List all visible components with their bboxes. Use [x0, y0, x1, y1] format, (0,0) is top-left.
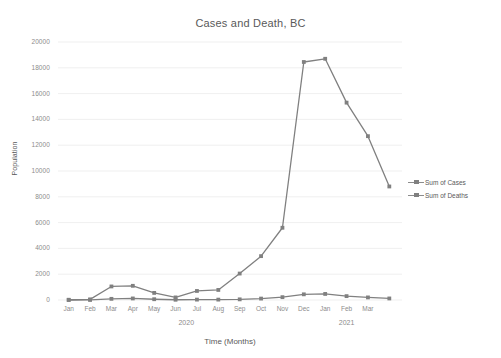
data-point-marker: [387, 297, 391, 301]
data-point-marker: [302, 292, 306, 296]
data-point-marker: [174, 298, 178, 302]
data-point-marker: [323, 57, 327, 61]
data-point-marker: [387, 185, 391, 189]
chart-container: Cases and Death, BC Population Time (Mon…: [0, 0, 501, 358]
data-point-marker: [216, 288, 220, 292]
data-point-marker: [67, 298, 71, 302]
data-point-marker: [345, 294, 349, 298]
chart-legend: Sum of CasesSum of Deaths: [408, 176, 496, 202]
data-point-marker: [366, 296, 370, 300]
data-point-marker: [238, 297, 242, 301]
data-point-marker: [281, 295, 285, 299]
legend-item-deaths[interactable]: Sum of Deaths: [408, 189, 496, 201]
legend-marker-icon: [408, 191, 424, 199]
gridlines: [58, 42, 402, 300]
data-point-marker: [195, 289, 199, 293]
legend-marker-icon: [408, 178, 424, 186]
data-point-marker: [110, 285, 114, 289]
data-point-marker: [366, 134, 370, 138]
data-point-marker: [216, 298, 220, 302]
data-point-marker: [302, 60, 306, 64]
data-point-marker: [259, 254, 263, 258]
data-point-marker: [281, 226, 285, 230]
data-point-marker: [152, 291, 156, 295]
legend-item-label: Sum of Cases: [424, 179, 466, 186]
data-point-marker: [345, 101, 349, 105]
data-point-marker: [88, 298, 92, 302]
data-point-marker: [131, 297, 135, 301]
data-point-marker: [238, 272, 242, 276]
legend-item-cases[interactable]: Sum of Cases: [408, 176, 496, 188]
series-line-cases: [69, 59, 390, 300]
legend-item-label: Sum of Deaths: [424, 192, 468, 199]
data-point-marker: [110, 297, 114, 301]
data-point-marker: [323, 292, 327, 296]
series-line-deaths: [69, 294, 390, 300]
data-point-marker: [131, 284, 135, 288]
data-point-marker: [259, 297, 263, 301]
data-point-marker: [152, 297, 156, 301]
data-point-marker: [195, 298, 199, 302]
